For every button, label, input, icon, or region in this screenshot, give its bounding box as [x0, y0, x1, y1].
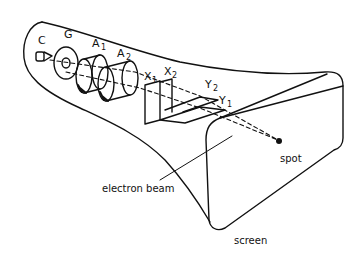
crt-diagram: C G A 1 A 2 X 1 X 2 Y 2 Y 1 spot electro…: [0, 0, 364, 260]
label-y2: Y: [204, 78, 212, 91]
y-plates: [160, 97, 225, 123]
label-y1-sub: 1: [227, 100, 232, 109]
label-a1-sub: 1: [101, 43, 106, 52]
label-electron-beam: electron beam: [102, 183, 174, 194]
label-x1: X: [144, 70, 152, 83]
label-x2: X: [164, 65, 172, 78]
beam-pointer: [160, 136, 232, 180]
label-a1: A: [92, 37, 100, 50]
screen-top-edge: [220, 74, 327, 118]
label-x2-sub: 2: [172, 71, 177, 80]
label-a2: A: [117, 47, 125, 60]
spot-dot: [276, 138, 282, 144]
label-screen: screen: [234, 235, 267, 246]
label-spot: spot: [280, 153, 302, 164]
label-grid: G: [64, 28, 73, 41]
label-y1: Y: [218, 94, 226, 107]
label-x1-sub: 1: [152, 76, 157, 85]
anode-a1: [76, 55, 108, 93]
label-cathode: C: [38, 34, 46, 47]
label-y2-sub: 2: [213, 84, 218, 93]
label-a2-sub: 2: [126, 53, 131, 62]
anode-a2: [98, 61, 138, 101]
